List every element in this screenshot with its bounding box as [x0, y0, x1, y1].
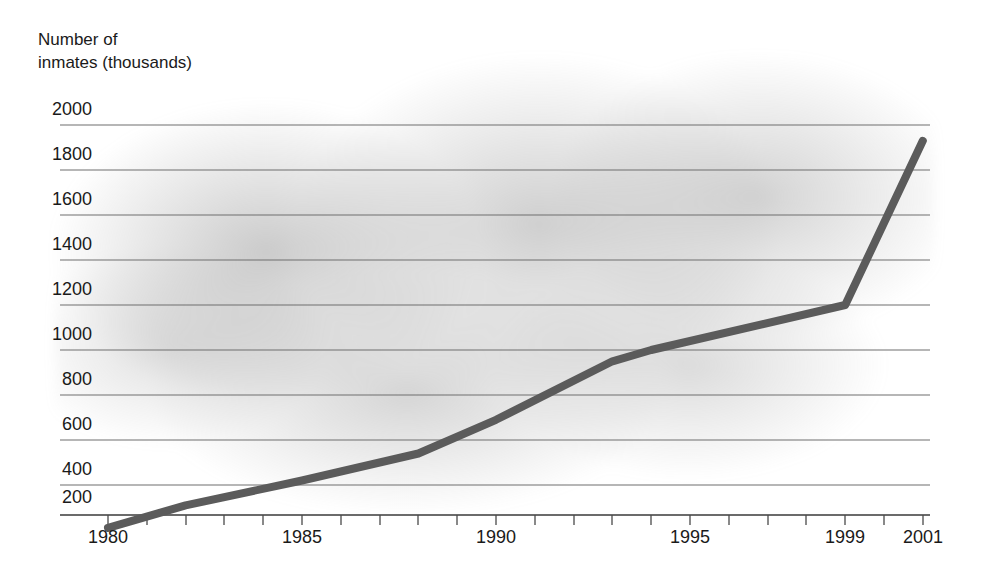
- x-tick-label-2001: 2001: [888, 527, 958, 548]
- y-tick-label-1200: 1200: [30, 279, 92, 300]
- x-tick-label-1995: 1995: [655, 527, 725, 548]
- y-tick-label-1800: 1800: [30, 144, 92, 165]
- x-tick-label-1990: 1990: [461, 527, 531, 548]
- x-tick-label-1985: 1985: [267, 527, 337, 548]
- y-tick-label-1400: 1400: [30, 234, 92, 255]
- x-axis-ticks: [108, 515, 923, 525]
- y-tick-label-400: 400: [30, 459, 92, 480]
- y-tick-label-600: 600: [30, 414, 92, 435]
- plot-area: [0, 0, 985, 578]
- y-tick-label-200: 200: [30, 487, 92, 508]
- x-tick-label-1999: 1999: [810, 527, 880, 548]
- inmates-line-chart: Number of inmates (thousands): [0, 0, 985, 578]
- data-series-inmates: [108, 141, 923, 528]
- y-tick-label-1600: 1600: [30, 189, 92, 210]
- y-tick-label-2000: 2000: [30, 99, 92, 120]
- y-tick-label-1000: 1000: [30, 324, 92, 345]
- y-tick-label-800: 800: [30, 369, 92, 390]
- x-tick-label-1980: 1980: [73, 527, 143, 548]
- gridlines: [60, 125, 930, 485]
